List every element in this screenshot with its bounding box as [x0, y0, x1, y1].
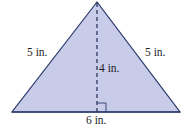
right-side-label: 5 in.	[145, 47, 165, 59]
left-side-label: 5 in.	[27, 47, 47, 59]
triangle-diagram	[0, 0, 182, 128]
height-label: 4 in.	[99, 63, 119, 75]
base-label: 6 in.	[86, 115, 106, 127]
